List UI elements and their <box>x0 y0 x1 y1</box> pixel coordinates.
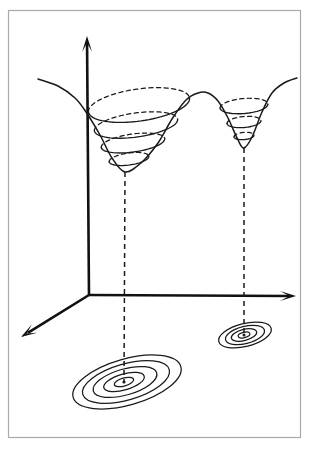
depth-axis <box>21 295 89 337</box>
minima-markers-group <box>122 334 245 384</box>
surface-profile-curve <box>38 78 297 172</box>
axes-group <box>21 36 296 337</box>
contour-projections-group <box>67 317 274 419</box>
figure-border <box>9 11 301 438</box>
left-well-level-back-arc-0 <box>88 88 189 112</box>
right-well-level-back-arc-0 <box>220 98 268 108</box>
right-well-level-back-arc-1 <box>227 116 261 123</box>
left-well-level-front-arc-0 <box>89 98 190 122</box>
vertical-axis-line <box>87 43 89 295</box>
surface-profile-group <box>38 78 297 172</box>
left-minimum-marker <box>122 380 125 383</box>
right-well-level-back-arc-2 <box>234 132 254 137</box>
left-well-level-sets <box>88 88 189 166</box>
left-contour-ring-4 <box>67 344 187 419</box>
horizontal-axis <box>89 291 296 301</box>
left-well-group <box>88 88 189 166</box>
left-well-contour-projection <box>67 344 187 419</box>
left-contour-ring-3 <box>78 352 174 411</box>
right-well-group <box>220 98 268 139</box>
left-well-level-back-arc-2 <box>101 133 164 147</box>
vertical-axis <box>82 36 92 295</box>
left-well-drop-line <box>124 172 125 382</box>
left-well-level-front-arc-3 <box>109 156 149 165</box>
right-well-level-front-arc-0 <box>220 104 268 114</box>
figure-root <box>0 0 316 451</box>
horizontal-axis-line <box>89 295 289 296</box>
right-well-level-sets <box>220 98 268 139</box>
depth-axis-line <box>28 295 89 333</box>
surface-contour-diagram <box>0 0 316 451</box>
right-minimum-marker <box>243 334 246 337</box>
